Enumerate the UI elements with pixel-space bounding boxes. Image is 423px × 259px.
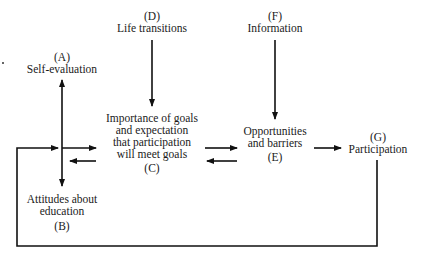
node-b-label-2: education xyxy=(17,205,107,217)
node-d-label: Life transitions xyxy=(112,22,192,34)
node-a-letter: (A) xyxy=(22,51,102,63)
node-d-letter: (D) xyxy=(112,10,192,22)
node-c-label-4: will meet goals xyxy=(97,148,207,160)
speck xyxy=(2,62,4,64)
node-c-letter: (C) xyxy=(97,162,207,174)
node-c: Importance of goals and expectation that… xyxy=(97,112,207,174)
node-d: (D) Life transitions xyxy=(112,10,192,34)
node-a: (A) Self-evaluation xyxy=(22,51,102,75)
node-f-letter: (F) xyxy=(235,10,315,22)
node-g: (G) Participation xyxy=(340,131,416,155)
node-b-letter: (B) xyxy=(17,220,107,232)
node-g-letter: (G) xyxy=(340,131,416,143)
node-b-label-1: Attitudes about xyxy=(17,193,107,205)
node-e-label-1: Opportunities xyxy=(237,125,313,137)
node-g-label: Participation xyxy=(340,143,416,155)
node-a-label: Self-evaluation xyxy=(22,63,102,75)
node-b: Attitudes about education (B) xyxy=(17,193,107,232)
node-e-letter: (E) xyxy=(237,151,313,163)
node-f-label: Information xyxy=(235,22,315,34)
node-c-label-1: Importance of goals xyxy=(97,112,207,124)
node-e-label-2: and barriers xyxy=(237,137,313,149)
node-e: Opportunities and barriers (E) xyxy=(237,125,313,163)
node-c-label-3: that participation xyxy=(97,136,207,148)
node-c-label-2: and expectation xyxy=(97,124,207,136)
node-f: (F) Information xyxy=(235,10,315,34)
